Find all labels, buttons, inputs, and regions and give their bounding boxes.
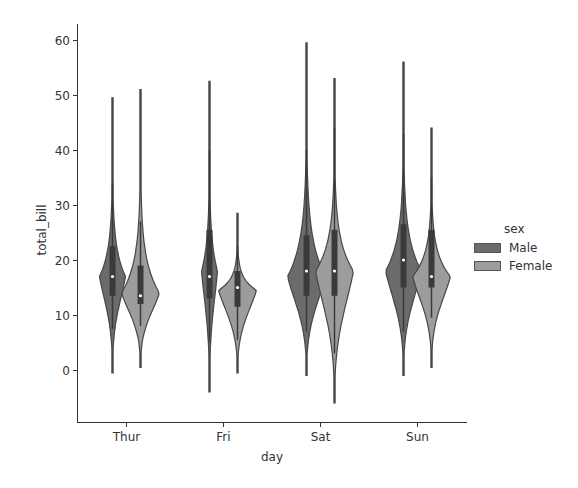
y-ticks: 0102030405060 xyxy=(55,34,77,378)
legend-item-male: Male xyxy=(472,239,552,257)
violin-median-dot xyxy=(305,269,308,272)
violin-median-dot xyxy=(236,286,239,289)
y-tick-label: 40 xyxy=(55,144,70,158)
violin-iqr-box xyxy=(401,224,407,287)
x-tick-label: Sat xyxy=(311,430,331,444)
violin-median-dot xyxy=(402,258,405,261)
violin-median-dot xyxy=(430,275,433,278)
y-tick-label: 60 xyxy=(55,34,70,48)
legend-item-female: Female xyxy=(472,257,552,275)
y-tick-label: 30 xyxy=(55,199,70,213)
violin-iqr-box xyxy=(304,235,310,296)
y-axis-label: total_bill xyxy=(35,204,49,255)
y-tick-label: 10 xyxy=(55,309,70,323)
violin-iqr-box xyxy=(332,230,338,296)
violin-median-dot xyxy=(139,294,142,297)
y-tick-label: 50 xyxy=(55,89,70,103)
x-axis-label: day xyxy=(261,450,283,464)
y-tick-label: 20 xyxy=(55,254,70,268)
legend: sex Male Female xyxy=(472,222,552,275)
legend-label-male: Male xyxy=(509,241,537,255)
x-tick-label: Sun xyxy=(406,430,429,444)
y-tick-label: 0 xyxy=(62,364,70,378)
x-tick-label: Thur xyxy=(112,430,141,444)
violin-iqr-box xyxy=(207,230,213,299)
violin-iqr-box xyxy=(110,246,116,296)
violin-iqr-box xyxy=(429,230,435,288)
x-tick-label: Fri xyxy=(216,430,230,444)
violin-median-dot xyxy=(111,275,114,278)
plot-area xyxy=(100,43,451,403)
x-ticks: ThurFriSatSun xyxy=(112,423,429,444)
legend-title: sex xyxy=(504,222,552,236)
legend-label-female: Female xyxy=(509,259,552,273)
legend-swatch-male xyxy=(474,243,501,253)
violin-iqr-box xyxy=(138,266,144,305)
violin-median-dot xyxy=(333,269,336,272)
violin-median-dot xyxy=(208,275,211,278)
legend-swatch-female xyxy=(474,261,501,271)
